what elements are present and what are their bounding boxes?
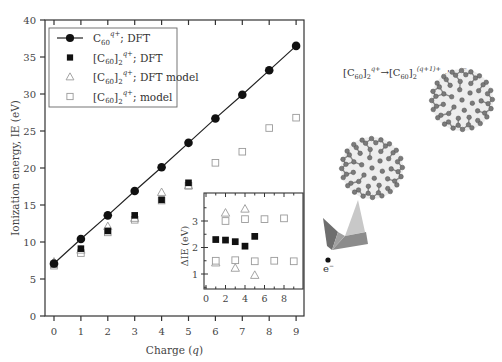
inset-x-tick-label: 6 — [261, 293, 267, 304]
filled-square-marker — [242, 243, 249, 250]
open-square-marker — [261, 216, 268, 223]
y-axis-label: Ionization energy, IE (eV) — [9, 100, 21, 236]
x-axis-label: Charge (q) — [146, 344, 203, 356]
open-square-marker — [67, 93, 73, 99]
legend: C60q+; DFT[C60]2q+; DFT[C60]2q+; DFT mod… — [49, 28, 199, 107]
filled-square-marker — [78, 245, 85, 252]
filled-square-marker — [232, 238, 239, 245]
circle-marker — [265, 66, 274, 75]
filled-square-marker — [67, 54, 73, 60]
circle-marker — [184, 139, 193, 148]
x-tick-label: 3 — [132, 326, 138, 337]
series-2 — [50, 181, 193, 265]
open-square-marker — [242, 216, 249, 223]
ionization-arrow-icon — [323, 200, 368, 250]
circle-marker — [292, 42, 301, 51]
x-tick-label: 6 — [212, 326, 218, 337]
inset-y-tick-label: 2 — [192, 242, 198, 253]
x-tick-label: 2 — [105, 326, 111, 337]
inset-x-tick-label: 0 — [203, 293, 209, 304]
open-triangle-marker — [157, 188, 165, 195]
circle-marker — [157, 163, 166, 172]
inset-x-tick-label: 4 — [242, 293, 248, 304]
open-square-marker — [293, 114, 300, 121]
circle-marker — [238, 90, 247, 99]
open-square-marker — [290, 258, 297, 265]
x-tick-label: 1 — [78, 326, 84, 337]
open-square-marker — [281, 215, 288, 222]
inset-y-axis-label: ΔIE (eV) — [179, 226, 190, 266]
x-tick-label: 7 — [239, 326, 245, 337]
filled-square-marker — [212, 236, 219, 243]
fullerene-right — [429, 68, 494, 132]
y-tick-label: 5 — [30, 274, 36, 285]
x-tick-label: 9 — [293, 326, 299, 337]
y-tick-label: 35 — [23, 52, 36, 63]
circle-marker — [211, 114, 220, 123]
y-tick-label: 30 — [23, 89, 36, 100]
ionization-energy-chart: 01234567890510152025303540Charge (q)Ioni… — [0, 0, 502, 362]
x-tick-label: 5 — [185, 326, 191, 337]
circle-marker — [104, 211, 113, 220]
filled-square-marker — [105, 228, 112, 235]
x-tick-label: 4 — [158, 326, 164, 337]
electron-label: e− — [323, 262, 334, 274]
filled-square-marker — [185, 180, 192, 187]
inset-y-tick-label: 3 — [192, 216, 198, 227]
x-tick-label: 0 — [51, 326, 57, 337]
open-square-marker — [271, 257, 278, 264]
open-square-marker — [251, 258, 258, 265]
open-square-marker — [212, 257, 219, 264]
open-square-marker — [239, 148, 246, 155]
open-square-marker — [222, 218, 229, 225]
open-square-marker — [212, 160, 219, 167]
fullerene-illustration: [C60]2q+→[C60]2(q+1)+ + e−e− — [323, 65, 495, 274]
inset-x-tick-label: 8 — [281, 293, 287, 304]
inset-x-tick-label: 2 — [222, 293, 228, 304]
y-tick-label: 25 — [23, 126, 36, 137]
circle-marker — [130, 187, 139, 196]
open-square-marker — [266, 125, 273, 132]
fullerene-left — [339, 136, 404, 200]
y-tick-label: 0 — [30, 311, 36, 322]
inset-chart: 02468123ΔIE (eV) — [179, 193, 303, 304]
y-tick-label: 20 — [23, 163, 36, 174]
x-tick-label: 8 — [266, 326, 272, 337]
y-tick-label: 10 — [23, 237, 36, 248]
circle-marker — [66, 34, 74, 42]
circle-marker — [77, 235, 86, 244]
circle-marker — [50, 259, 59, 268]
y-tick-label: 15 — [23, 200, 36, 211]
filled-square-marker — [158, 197, 165, 204]
y-tick-label: 40 — [23, 15, 36, 26]
inset-y-tick-label: 1 — [192, 269, 198, 280]
filled-square-marker — [222, 237, 229, 244]
series-1 — [51, 180, 192, 268]
filled-square-marker — [251, 233, 258, 240]
open-square-marker — [232, 257, 239, 264]
filled-square-marker — [131, 212, 138, 219]
